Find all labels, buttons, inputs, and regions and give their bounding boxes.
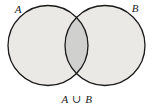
figure-caption: A ∪ B [61, 93, 93, 105]
venn-diagram-figure: A B A ∪ B [0, 0, 153, 109]
set-a-label: A [14, 3, 22, 15]
venn-diagram-canvas: A B A ∪ B [0, 0, 153, 109]
set-b-label: B [132, 2, 139, 14]
